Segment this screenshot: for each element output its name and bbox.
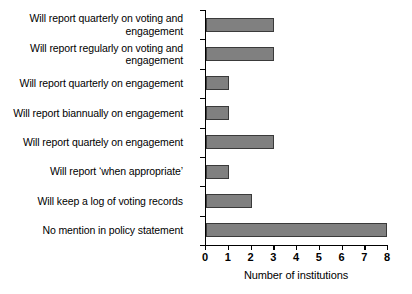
x-axis-tick bbox=[296, 245, 297, 250]
bar bbox=[206, 106, 229, 120]
x-axis-tick-label: 6 bbox=[330, 251, 354, 263]
y-axis-tick bbox=[200, 69, 205, 70]
x-axis-tick bbox=[364, 245, 365, 250]
x-axis-tick bbox=[319, 245, 320, 250]
category-label: Will keep a log of voting records bbox=[0, 186, 188, 215]
bar bbox=[206, 47, 274, 61]
category-axis-labels: Will report quarterly on voting and enga… bbox=[0, 10, 188, 245]
y-axis-tick bbox=[200, 10, 205, 11]
y-axis-tick bbox=[200, 157, 205, 158]
x-axis-tick bbox=[228, 245, 229, 250]
bar-slot bbox=[206, 186, 387, 215]
x-axis-tick-label: 7 bbox=[352, 251, 376, 263]
category-label: Will report biannually on engagement bbox=[0, 98, 188, 127]
plot-area bbox=[205, 10, 387, 245]
x-axis-tick-label: 8 bbox=[375, 251, 399, 263]
x-axis-tick bbox=[273, 245, 274, 250]
x-axis-tick-label: 2 bbox=[239, 251, 263, 263]
bar bbox=[206, 76, 229, 90]
x-axis-tick bbox=[251, 245, 252, 250]
category-label: Will report regularly on voting and enga… bbox=[0, 39, 188, 68]
y-axis-tick bbox=[200, 128, 205, 129]
y-axis-tick bbox=[200, 39, 205, 40]
x-axis-tick bbox=[342, 245, 343, 250]
category-label: No mention in policy statement bbox=[0, 216, 188, 245]
x-axis-title: Number of institutions bbox=[205, 269, 387, 281]
x-axis-tick bbox=[205, 245, 206, 250]
y-axis-tick bbox=[200, 186, 205, 187]
x-axis-tick-label: 5 bbox=[307, 251, 331, 263]
bar bbox=[206, 18, 274, 32]
y-axis-tick bbox=[200, 216, 205, 217]
bar-slot bbox=[206, 69, 387, 98]
category-label: Will report ‘when appropriate’ bbox=[0, 157, 188, 186]
bar-chart-figure: Will report quarterly on voting and enga… bbox=[0, 0, 412, 294]
category-label: Will report quarterly on engagement bbox=[0, 69, 188, 98]
x-axis-tick-label: 3 bbox=[261, 251, 285, 263]
bar-slot bbox=[206, 128, 387, 157]
bar bbox=[206, 135, 274, 149]
category-label: Will report quartely on engagement bbox=[0, 128, 188, 157]
x-axis-tick-label: 0 bbox=[193, 251, 217, 263]
x-axis-tick bbox=[387, 245, 388, 250]
bar-series bbox=[206, 10, 387, 245]
bar-slot bbox=[206, 10, 387, 39]
bar bbox=[206, 165, 229, 179]
bar bbox=[206, 223, 387, 237]
bar-slot bbox=[206, 216, 387, 245]
category-label: Will report quarterly on voting and enga… bbox=[0, 10, 188, 39]
bar bbox=[206, 194, 252, 208]
bar-slot bbox=[206, 98, 387, 127]
y-axis-tick bbox=[200, 98, 205, 99]
x-axis-tick-label: 4 bbox=[284, 251, 308, 263]
bar-slot bbox=[206, 157, 387, 186]
bar-slot bbox=[206, 39, 387, 68]
x-axis-tick-label: 1 bbox=[216, 251, 240, 263]
